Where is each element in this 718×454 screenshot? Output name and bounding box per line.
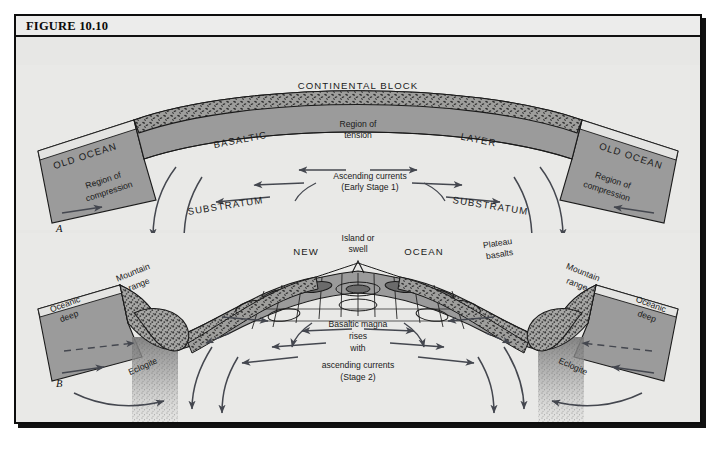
label-region-of-tension-line2: tension <box>344 130 372 140</box>
figure-frame: FIGURE 10.10 <box>14 14 702 424</box>
label-early-stage-1: (Early Stage 1) <box>341 182 398 192</box>
panel-label-a: A <box>55 223 63 234</box>
label-region-of-tension-line1: Region of <box>340 119 377 129</box>
diagram-canvas: CONTINENTAL BLOCK OLD OCEAN OLD OCEAN BA… <box>16 37 700 422</box>
label-new: NEW <box>293 246 319 257</box>
figure-header-bar: FIGURE 10.10 <box>16 16 700 37</box>
label-rises: rises <box>349 331 367 341</box>
label-island-or: Island or <box>342 233 375 243</box>
label-ocean-new: OCEAN <box>404 246 444 257</box>
label-ascending-currents-b: ascending currents <box>322 360 395 370</box>
label-basaltic-magna: Basaltic magna <box>329 319 388 329</box>
figure-number-label: FIGURE 10.10 <box>26 19 108 34</box>
label-with: with <box>349 343 366 353</box>
label-continental-block: CONTINENTAL BLOCK <box>298 80 419 91</box>
label-swell: swell <box>348 244 367 254</box>
geology-diagram-svg: CONTINENTAL BLOCK OLD OCEAN OLD OCEAN BA… <box>16 37 700 422</box>
figure-page: FIGURE 10.10 <box>0 0 718 454</box>
panel-b: Island or swell NEW OCEAN Plateau basalt… <box>16 233 700 422</box>
label-ascending-currents-a: Ascending currents <box>333 171 407 181</box>
label-stage-2: (Stage 2) <box>340 372 375 382</box>
panel-a: CONTINENTAL BLOCK OLD OCEAN OLD OCEAN BA… <box>16 65 700 248</box>
panel-label-b: B <box>56 378 63 389</box>
